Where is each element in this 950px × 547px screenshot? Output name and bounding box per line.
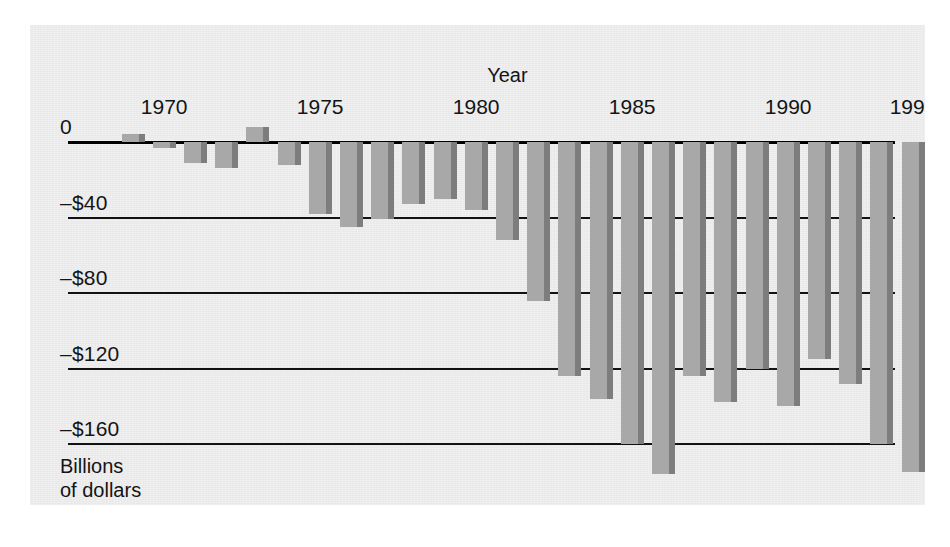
bar-shadow	[482, 142, 488, 210]
gridline-40	[68, 217, 895, 219]
bar-1994	[902, 142, 925, 472]
bar-shadow	[825, 142, 831, 359]
bar-shadow	[201, 142, 207, 163]
bar-shadow	[919, 142, 925, 472]
bar-1992	[839, 142, 862, 384]
bar-1970	[153, 142, 176, 148]
bar-shadow	[451, 142, 457, 199]
bar-shadow	[544, 142, 550, 301]
bar-shadow	[575, 142, 581, 376]
bar-1976	[340, 142, 363, 227]
bar-1993	[870, 142, 893, 444]
bar-shadow	[638, 142, 644, 444]
bar-1982	[527, 142, 550, 301]
bar-shadow	[357, 142, 363, 227]
bar-shadow	[794, 142, 800, 406]
y-axis-caption: Billions of dollars	[60, 454, 141, 503]
y-tick-label: –$40	[60, 191, 108, 215]
x-tick-label: 1970	[141, 95, 188, 119]
x-tick-label: 1985	[609, 95, 656, 119]
bar-shadow	[388, 142, 394, 219]
bar-1973	[246, 127, 269, 142]
bar-1986	[652, 142, 675, 474]
bar-1978	[402, 142, 425, 204]
bar-1984	[590, 142, 613, 399]
bar-1987	[683, 142, 706, 376]
gridline-80	[68, 292, 895, 294]
bar-shadow	[232, 142, 238, 168]
y-tick-label: 0	[60, 115, 72, 139]
bar-shadow	[700, 142, 706, 376]
x-tick-label: 1990	[765, 95, 812, 119]
x-tick-label: 1994	[890, 95, 925, 119]
bar-1977	[371, 142, 394, 219]
bar-1974	[278, 142, 301, 165]
y-tick-label: –$160	[60, 417, 119, 441]
bar-shadow	[731, 142, 737, 402]
bar-shadow	[513, 142, 519, 240]
plot-area: 0–$40–$80–$120–$160197019751980198519901…	[30, 25, 925, 505]
chart-panel: 0–$40–$80–$120–$160197019751980198519901…	[30, 25, 925, 505]
bar-1980	[465, 142, 488, 210]
bar-1972	[215, 142, 238, 168]
bar-1971	[184, 142, 207, 163]
x-axis-title: Year	[487, 64, 527, 87]
bar-1981	[496, 142, 519, 240]
x-tick-label: 1975	[297, 95, 344, 119]
bar-1979	[434, 142, 457, 199]
bar-1983	[558, 142, 581, 376]
bar-shadow	[763, 142, 769, 369]
gridline-160	[68, 443, 895, 445]
bar-shadow	[139, 134, 145, 142]
bar-1985	[621, 142, 644, 444]
bar-1989	[746, 142, 769, 369]
bar-shadow	[887, 142, 893, 444]
y-tick-label: –$120	[60, 342, 119, 366]
bar-1988	[714, 142, 737, 402]
bar-shadow	[295, 142, 301, 165]
y-tick-label: –$80	[60, 266, 108, 290]
x-tick-label: 1980	[453, 95, 500, 119]
bar-shadow	[263, 127, 269, 142]
bar-1975	[309, 142, 332, 214]
bar-1990	[777, 142, 800, 406]
bar-1969	[122, 134, 145, 142]
gridline-120	[68, 368, 895, 370]
bar-shadow	[669, 142, 675, 474]
bar-shadow	[856, 142, 862, 384]
bar-1991	[808, 142, 831, 359]
bar-shadow	[419, 142, 425, 204]
bar-shadow	[607, 142, 613, 399]
bar-shadow	[170, 142, 176, 148]
bar-shadow	[326, 142, 332, 214]
